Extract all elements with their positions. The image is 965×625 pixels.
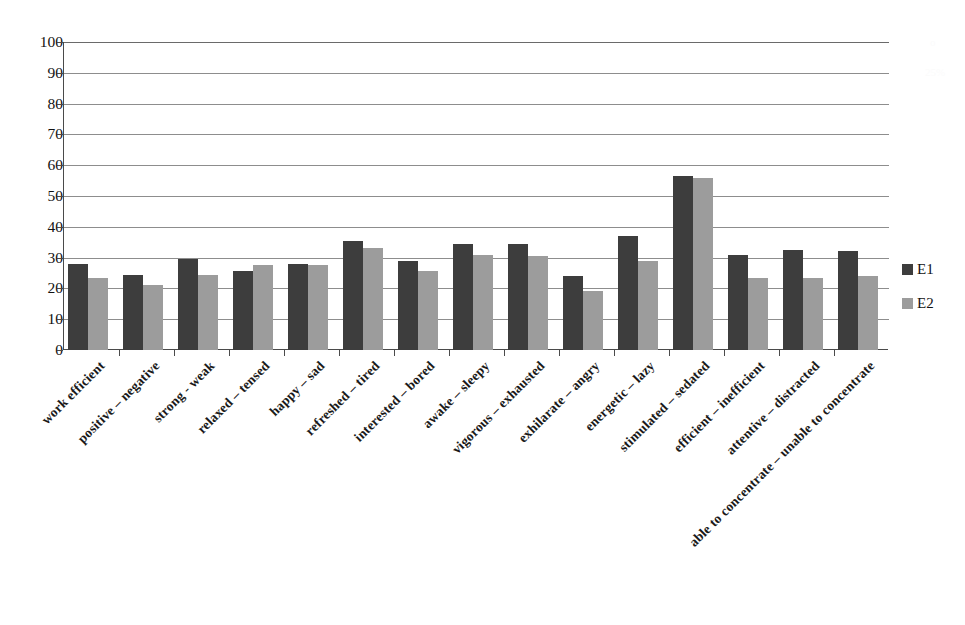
y-tick-mark-40 xyxy=(57,227,63,228)
bar-e1 xyxy=(838,251,858,350)
scan-artifact: o xyxy=(930,36,936,48)
y-tick-mark-100 xyxy=(57,42,63,43)
bar-e1 xyxy=(123,275,143,350)
bar-e2 xyxy=(143,285,163,350)
bar-e1 xyxy=(673,176,693,350)
y-tick-mark-70 xyxy=(57,134,63,135)
bar-group xyxy=(614,42,669,350)
bar-e2 xyxy=(528,256,548,350)
bar-e1 xyxy=(453,244,473,350)
chart-legend: E1 E2 xyxy=(902,252,962,320)
bar-group xyxy=(119,42,174,350)
y-tick-mark-80 xyxy=(57,104,63,105)
bar-group xyxy=(394,42,449,350)
bar-group xyxy=(504,42,559,350)
bar-e2 xyxy=(88,278,108,350)
y-axis: 1009080706050403020100 xyxy=(20,42,63,350)
legend-entry-e1: E1 xyxy=(902,252,962,286)
x-tick-mark xyxy=(394,350,395,356)
bar-group xyxy=(779,42,834,350)
bar-group xyxy=(669,42,724,350)
bar-e1 xyxy=(618,236,638,350)
bar-e1 xyxy=(783,250,803,350)
x-tick-mark xyxy=(724,350,725,356)
bar-groups xyxy=(64,42,889,350)
bar-e2 xyxy=(418,271,438,350)
bar-group xyxy=(559,42,614,350)
x-axis-label: attentive – distracted xyxy=(723,358,823,458)
bar-e2 xyxy=(693,178,713,350)
x-tick-mark xyxy=(174,350,175,356)
y-tick-mark-90 xyxy=(57,73,63,74)
x-axis-label: efficient – inefficient xyxy=(671,358,769,456)
y-tick-mark-20 xyxy=(57,288,63,289)
bar-group xyxy=(449,42,504,350)
y-tick-mark-10 xyxy=(57,319,63,320)
bar-e2 xyxy=(748,278,768,350)
bar-group xyxy=(724,42,779,350)
legend-label-e2: E2 xyxy=(917,295,934,312)
x-tick-mark xyxy=(779,350,780,356)
x-tick-mark xyxy=(559,350,560,356)
bar-e1 xyxy=(343,241,363,350)
x-tick-mark xyxy=(339,350,340,356)
x-tick-mark xyxy=(834,350,835,356)
bar-e2 xyxy=(473,255,493,350)
x-tick-mark xyxy=(284,350,285,356)
plot-area xyxy=(63,42,888,350)
x-tick-mark xyxy=(229,350,230,356)
bar-e1 xyxy=(178,259,198,350)
x-tick-mark xyxy=(449,350,450,356)
y-tick-mark-60 xyxy=(57,165,63,166)
bar-e2 xyxy=(253,265,273,350)
bar-e2 xyxy=(803,278,823,350)
legend-swatch-icon-e2 xyxy=(902,298,913,309)
bar-group xyxy=(339,42,394,350)
bar-group xyxy=(174,42,229,350)
scan-artifact: 25% xyxy=(925,66,945,78)
legend-swatch-icon-e1 xyxy=(902,264,913,275)
bar-chart-figure: 1009080706050403020100 work efficientpos… xyxy=(0,0,965,625)
bar-e1 xyxy=(563,276,583,350)
x-axis-label: vigorous – exhausted xyxy=(449,358,548,457)
bar-group xyxy=(229,42,284,350)
bar-e1 xyxy=(233,271,253,350)
bar-e2 xyxy=(858,276,878,350)
y-tick-mark-0 xyxy=(57,350,63,351)
bar-e1 xyxy=(68,264,88,350)
y-tick-mark-30 xyxy=(57,258,63,259)
x-tick-mark xyxy=(669,350,670,356)
bar-e2 xyxy=(583,291,603,350)
legend-entry-e2: E2 xyxy=(902,286,962,320)
bar-group xyxy=(64,42,119,350)
bar-e2 xyxy=(638,261,658,350)
x-tick-mark xyxy=(614,350,615,356)
bar-e1 xyxy=(398,261,418,350)
y-tick-mark-50 xyxy=(57,196,63,197)
bar-e2 xyxy=(363,248,383,350)
bar-group xyxy=(284,42,339,350)
bar-e2 xyxy=(308,265,328,350)
bar-group xyxy=(834,42,889,350)
legend-label-e1: E1 xyxy=(917,261,934,278)
bar-e2 xyxy=(198,275,218,350)
bar-e1 xyxy=(508,244,528,350)
bar-e1 xyxy=(728,255,748,350)
x-tick-mark xyxy=(119,350,120,356)
bar-e1 xyxy=(288,264,308,350)
x-tick-mark xyxy=(504,350,505,356)
